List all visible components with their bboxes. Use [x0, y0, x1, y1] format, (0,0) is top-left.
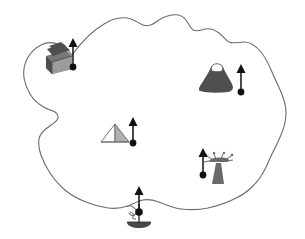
map-canvas: Island map with landmark markers Treasur…	[0, 0, 305, 239]
map-illustration	[0, 0, 305, 239]
harbour-inlet-outline	[127, 206, 136, 216]
